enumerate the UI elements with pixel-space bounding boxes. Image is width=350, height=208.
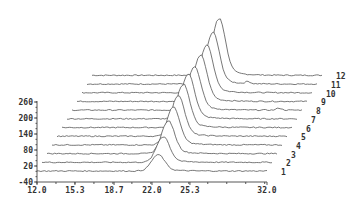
series-label-11: 11: [331, 81, 341, 90]
trace-group: [37, 19, 322, 175]
series-label-3: 3: [291, 151, 296, 160]
x-tick-label: 12.0: [27, 186, 46, 195]
series-label-10: 10: [326, 90, 336, 99]
x-axis-ticks: 12.015.318.722.025.332.0: [27, 182, 276, 195]
series-label-6: 6: [306, 125, 311, 134]
series-label-9: 9: [321, 98, 326, 107]
series-label-2: 2: [286, 159, 291, 168]
series-label-8: 8: [316, 107, 321, 116]
y-tick-label: 260: [19, 98, 34, 107]
y-axis-ticks: 2602001408020-40: [19, 98, 37, 187]
series-label-12: 12: [336, 72, 346, 81]
y-tick-label: 20: [23, 162, 33, 171]
y-tick-label: 140: [19, 130, 34, 139]
series-label-7: 7: [311, 116, 316, 125]
x-tick-label: 25.3: [180, 186, 199, 195]
series-label-5: 5: [301, 133, 306, 142]
series-label-group: 121110987654321: [281, 72, 346, 177]
x-tick-label: 18.7: [104, 186, 123, 195]
x-tick-label: 22.0: [142, 186, 161, 195]
y-tick-label: 200: [19, 114, 34, 123]
x-tick-label: 15.3: [65, 186, 84, 195]
series-label-4: 4: [296, 142, 301, 151]
waterfall-chart: 121110987654321 2602001408020-40 12.015.…: [0, 0, 350, 208]
y-tick-label: 80: [23, 146, 33, 155]
x-tick-label: 32.0: [257, 186, 276, 195]
series-label-1: 1: [281, 168, 286, 177]
